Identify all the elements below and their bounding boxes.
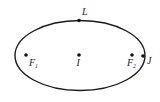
point-J [141,54,145,58]
label-J: J [147,55,152,66]
label-F2: F2 [126,57,136,69]
point-F1 [24,53,28,57]
point-L [77,19,81,23]
ellipse-diagram: L F1 I F2 J [0,0,160,102]
label-L: L [81,6,88,17]
label-I: I [76,57,81,68]
label-F1: F1 [28,57,38,69]
